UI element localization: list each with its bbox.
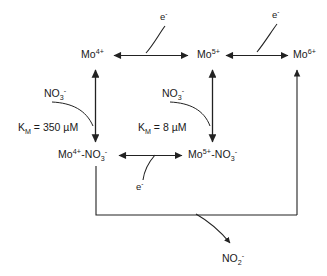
nitrite-product-label: NO2- (222, 253, 244, 264)
species-label-mo4: Mo4+ (81, 49, 104, 60)
nitrite-base: NO (222, 252, 238, 264)
mo6-base: Mo (293, 48, 308, 60)
electron-charge-top-left: - (165, 10, 167, 17)
mo4-complex-charge: 4+ (73, 148, 81, 156)
nitrate-label-middle: NO3- (162, 88, 184, 99)
mo4-base: Mo (81, 48, 96, 60)
nitrite-charge: - (242, 252, 244, 260)
mo6-charge: 6+ (308, 48, 316, 56)
nitrate-middle-charge: - (182, 87, 184, 95)
km-left-equals: = (31, 121, 43, 133)
reaction-scheme-diagram: Mo4+ Mo5+ Mo6+ e- e- NO3- NO3- KM = 350 … (0, 0, 327, 276)
nitrate-middle-sub: 3 (178, 94, 182, 102)
mo5-base: Mo (197, 48, 212, 60)
mo4-charge: 4+ (96, 48, 104, 56)
electron-charge-top-right: - (277, 8, 279, 15)
electron-curve-bottom (143, 155, 155, 180)
mo5-complex-ligand: -NO (211, 148, 231, 160)
km-middle-symbol: K (138, 121, 145, 133)
electron-label-top-right: e- (272, 10, 279, 20)
mo5-charge: 5+ (212, 48, 220, 56)
feedback-loop-path (96, 166, 297, 215)
nitrate-left-sub: 3 (60, 94, 64, 102)
mo5-complex-ligand-charge: - (235, 148, 237, 156)
species-label-mo5: Mo5+ (197, 49, 220, 60)
electron-label-bottom: e- (136, 182, 143, 192)
electron-curve-top-left (146, 26, 165, 53)
km-label-middle: KM = 8 µM (138, 122, 186, 133)
nitrite-release-curve (196, 214, 230, 243)
nitrate-middle-base: NO (162, 87, 178, 99)
km-left-symbol: K (18, 121, 25, 133)
mo4-complex-ligand-sub: 3 (101, 155, 105, 163)
mo5-complex-charge: 5+ (203, 148, 211, 156)
arrow-layer (0, 0, 327, 276)
km-middle-unit: µM (169, 121, 187, 133)
km-left-value: 350 (43, 121, 61, 133)
mo5-complex-ligand-sub: 3 (231, 155, 235, 163)
electron-label-top-left: e- (160, 12, 167, 22)
mo4-complex-ligand-charge: - (105, 148, 107, 156)
km-middle-equals: = (151, 121, 163, 133)
complex-label-mo5-nitrate: Mo5+-NO3- (188, 149, 237, 160)
mo5-complex-metal: Mo (188, 148, 203, 160)
km-label-left: KM = 350 µM (18, 122, 78, 133)
mo4-complex-ligand: -NO (81, 148, 101, 160)
complex-label-mo4-nitrate: Mo4+-NO3- (58, 149, 107, 160)
nitrate-left-charge: - (64, 87, 66, 95)
species-label-mo6: Mo6+ (293, 49, 316, 60)
nitrate-left-base: NO (44, 87, 60, 99)
nitrate-label-left: NO3- (44, 88, 66, 99)
electron-charge-bottom: - (141, 180, 143, 187)
mo4-complex-metal: Mo (58, 148, 73, 160)
nitrite-sub: 2 (238, 259, 242, 267)
electron-curve-top-right (257, 24, 277, 52)
km-left-unit: µM (60, 121, 78, 133)
